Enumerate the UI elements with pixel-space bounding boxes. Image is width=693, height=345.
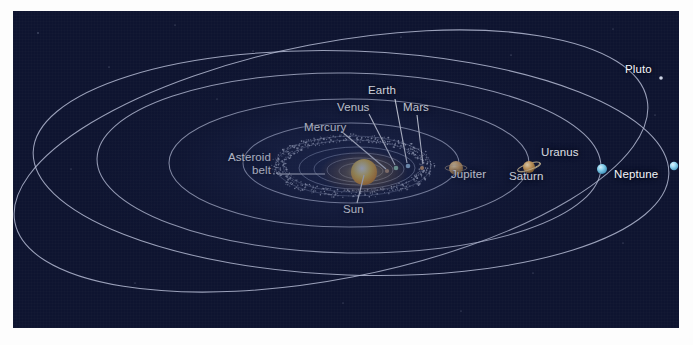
label-earth: Earth	[368, 84, 396, 97]
label-leader-lines	[13, 11, 679, 328]
leader-sun	[357, 175, 364, 203]
label-venus: Venus	[337, 101, 369, 114]
label-neptune: Neptune	[614, 168, 658, 181]
label-sun: Sun	[343, 203, 364, 216]
label-mercury: Mercury	[304, 121, 346, 134]
label-asteroid-belt: Asteroid belt	[199, 151, 271, 177]
label-uranus: Uranus	[541, 146, 579, 159]
asteroid-belt-line-1: Asteroid	[228, 151, 271, 163]
space-canvas: Sun Mercury Venus Earth Mars Asteroid be…	[13, 11, 679, 328]
solar-system-figure: Sun Mercury Venus Earth Mars Asteroid be…	[0, 0, 693, 345]
label-pluto: Pluto	[625, 63, 652, 76]
label-saturn: Saturn	[509, 170, 543, 183]
leader-mercury	[341, 131, 386, 169]
label-jupiter: Jupiter	[451, 168, 486, 181]
asteroid-belt-line-2: belt	[252, 164, 271, 176]
leader-mars	[417, 115, 423, 164]
label-mars: Mars	[403, 101, 429, 114]
